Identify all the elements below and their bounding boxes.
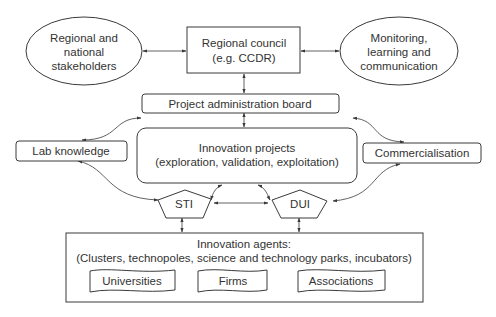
monitoring-line-1: Monitoring,	[371, 32, 428, 44]
node-lab-knowledge: Lab knowledge	[16, 141, 127, 161]
edge-projects-sti	[211, 185, 222, 200]
regional-stakeholders-line-1: Regional and	[50, 32, 118, 44]
node-dui: DUI	[272, 190, 327, 218]
commercialisation-label: Commercialisation	[375, 147, 470, 159]
agent-associations: Associations	[298, 270, 385, 292]
node-commercialisation: Commercialisation	[363, 143, 481, 163]
innovation-agents-subtitle: (Clusters, technopoles, science and tech…	[76, 252, 412, 264]
agent-universities: Universities	[90, 270, 175, 292]
monitoring-line-3: communication	[360, 60, 437, 72]
regional-stakeholders-line-3: stakeholders	[51, 60, 116, 72]
agent-firms: Firms	[198, 270, 267, 292]
innovation-agents-title: Innovation agents:	[197, 238, 291, 250]
node-innovation-agents: Innovation agents: (Clusters, technopole…	[66, 233, 423, 302]
node-regional-stakeholders: Regional and national stakeholders	[26, 17, 142, 85]
innovation-system-diagram: Regional and national stakeholders Regio…	[0, 0, 496, 317]
regional-council-line-1: Regional council	[202, 37, 286, 49]
edge-projects-dui	[258, 185, 270, 200]
edge-projects-commercialisation	[353, 118, 404, 142]
monitoring-line-2: learning and	[367, 46, 430, 58]
dui-label: DUI	[290, 198, 310, 210]
firms-label: Firms	[219, 275, 248, 287]
project-admin-board-label: Project administration board	[168, 98, 311, 110]
regional-council-line-2: (e.g. CCDR)	[212, 52, 275, 64]
edge-projects-lab	[82, 118, 141, 140]
node-sti: STI	[158, 190, 211, 218]
associations-label: Associations	[309, 275, 374, 287]
innovation-projects-line-1: Innovation projects	[199, 142, 296, 154]
innovation-projects-line-2: (exploration, validation, exploitation)	[155, 156, 339, 168]
lab-knowledge-label: Lab knowledge	[32, 145, 109, 157]
node-monitoring: Monitoring, learning and communication	[340, 17, 458, 85]
node-innovation-projects: Innovation projects (exploration, valida…	[137, 128, 357, 183]
node-project-admin-board: Project administration board	[142, 94, 339, 113]
sti-label: STI	[175, 198, 193, 210]
node-regional-council: Regional council (e.g. CCDR)	[187, 27, 300, 73]
universities-label: Universities	[102, 275, 162, 287]
regional-stakeholders-line-2: national	[64, 46, 104, 58]
